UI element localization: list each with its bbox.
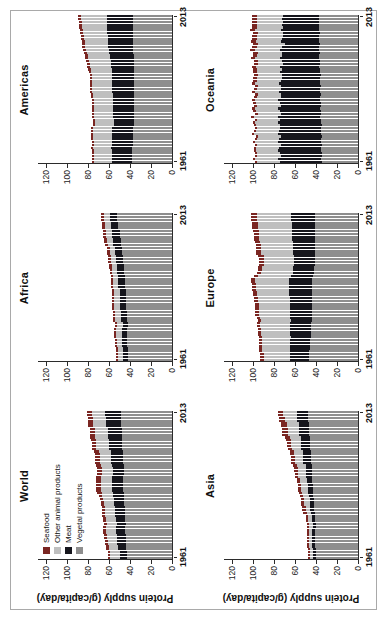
bar-segment	[312, 531, 315, 533]
bar-segment	[310, 445, 358, 447]
bar-segment	[102, 467, 114, 469]
bar-segment	[292, 224, 315, 226]
bar-segment	[281, 94, 321, 96]
bar-segment	[254, 88, 257, 90]
bar-segment	[316, 554, 358, 556]
bar-segment	[107, 18, 133, 20]
bar-segment	[134, 85, 172, 87]
bar-segment	[289, 278, 312, 280]
bar-segment	[116, 353, 118, 355]
bar-segment	[88, 420, 93, 422]
bar-segment	[312, 297, 358, 299]
bar-segment	[112, 233, 119, 235]
bar-segment	[124, 473, 172, 475]
bar-segment	[257, 292, 289, 294]
bar-segment	[134, 96, 172, 98]
bar-segment	[252, 24, 257, 26]
bar-segment	[104, 238, 107, 240]
bar-segment	[117, 325, 122, 327]
bar-segment	[308, 557, 310, 559]
bar-segment	[111, 227, 118, 229]
bar-segment	[292, 448, 301, 450]
bar-segment	[85, 46, 108, 48]
bar-segment	[315, 545, 358, 547]
bar-segment	[290, 325, 311, 327]
bar-segment	[303, 450, 310, 452]
bar-segment	[307, 537, 309, 539]
bar-segment	[134, 113, 172, 115]
bar-segment	[81, 15, 107, 17]
bar-segment	[291, 439, 302, 441]
bar-segment	[84, 52, 87, 54]
y-tick-label: 120	[41, 566, 51, 596]
bar-segment	[288, 448, 292, 450]
bar-segment	[128, 347, 172, 349]
bar-segment	[255, 29, 281, 31]
y-tick-mark	[316, 561, 317, 565]
bar-segment	[111, 224, 118, 226]
bar-segment	[107, 32, 133, 34]
bar-segment	[300, 481, 306, 483]
bar-segment	[310, 557, 313, 559]
bar-segment	[282, 52, 320, 54]
bar-segment	[133, 52, 172, 54]
bar-segment	[289, 292, 312, 294]
bar-segment	[93, 138, 112, 140]
bar-segment	[134, 88, 172, 90]
bar-segment	[122, 342, 127, 344]
bar-segment	[111, 255, 116, 257]
bar-segment	[92, 107, 94, 109]
x-year-label-end: 2013	[364, 200, 374, 230]
y-tick-mark	[109, 363, 110, 367]
bar-segment	[306, 509, 310, 511]
bar-segment	[108, 431, 122, 433]
bar-segment	[254, 149, 256, 151]
bar-segment	[94, 141, 112, 143]
bar-segment	[116, 529, 124, 531]
bar-segment	[312, 537, 315, 539]
y-tick-label: 60	[104, 566, 114, 596]
bar-segment	[293, 244, 315, 246]
bar-segment	[321, 105, 358, 107]
bar-segment	[109, 442, 122, 444]
bar-segment	[311, 462, 358, 464]
bar-segment	[123, 322, 128, 324]
bar-segment	[92, 82, 112, 84]
panel-americas: Americas 02040608010012019612013	[38, 16, 172, 164]
bar-segment	[307, 534, 309, 536]
bar-segment	[110, 213, 117, 215]
bar-segment	[126, 308, 172, 310]
bar-segment	[82, 26, 107, 28]
bar-segment	[128, 359, 172, 361]
bar-segment	[295, 459, 303, 461]
bar-segment	[114, 331, 116, 333]
bar-segment	[261, 244, 293, 246]
bar-segment	[283, 35, 319, 37]
bar-segment	[287, 442, 291, 444]
bar-segment	[290, 353, 309, 355]
bar-segment	[117, 345, 121, 347]
bar-segment	[107, 24, 133, 26]
bar-segment	[252, 38, 257, 40]
bar-segment	[123, 255, 172, 257]
bar-segment	[255, 314, 259, 316]
bar-segment	[110, 252, 115, 254]
bar-segment	[89, 60, 111, 62]
bar-segment	[112, 135, 133, 137]
bar-segment	[113, 110, 134, 112]
bar-segment	[309, 422, 358, 424]
bar-segment	[278, 411, 283, 413]
bar-segment	[134, 99, 172, 101]
bar-segment	[114, 498, 123, 500]
bar-segment	[116, 350, 118, 352]
bar-segment	[114, 333, 116, 335]
bar-segment	[106, 529, 117, 531]
bar-segment	[114, 294, 119, 296]
bar-segment	[320, 68, 358, 70]
bar-segment	[310, 436, 358, 438]
bar-segment	[118, 548, 125, 550]
legend-item-seafood: Seafood	[41, 464, 52, 554]
bar-segment	[114, 292, 119, 294]
bar-segment	[106, 422, 121, 424]
bar-segment	[116, 333, 121, 335]
